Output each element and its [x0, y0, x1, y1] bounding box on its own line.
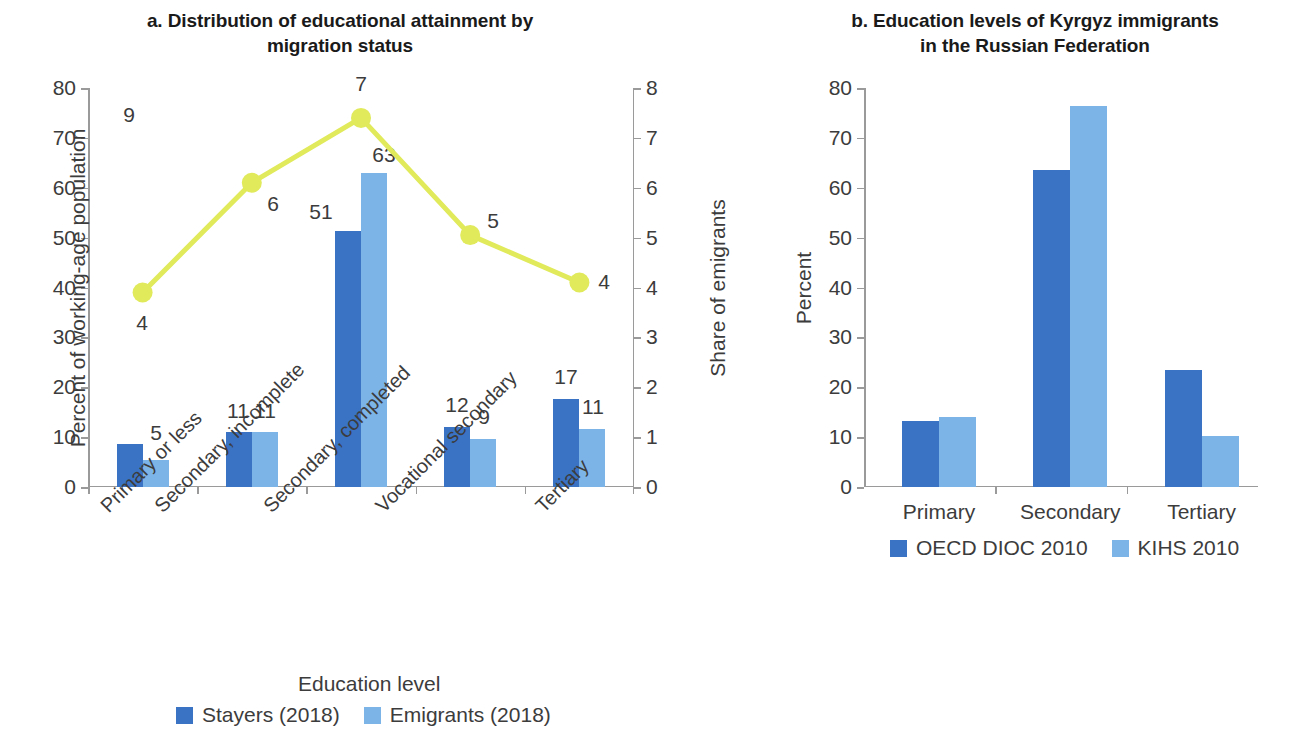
- panel-a-y-axis-title: Percent of working-age population: [66, 128, 90, 447]
- panel-b-xtick-2: [1127, 487, 1129, 494]
- bar-emigrants-secondary-incomplete[interactable]: [252, 432, 278, 487]
- bar-oecd-tertiary[interactable]: [1165, 370, 1202, 487]
- line-marker-3[interactable]: [460, 225, 480, 245]
- panel-b-ytick-60: [857, 188, 864, 190]
- panel-b-ytick-0: [857, 487, 864, 489]
- panel-a-ytick-0: [81, 487, 88, 489]
- line-label-2: 7: [355, 72, 367, 96]
- bar-kihs-tertiary[interactable]: [1202, 436, 1239, 487]
- bar-label-emigrants-4: 11: [582, 395, 604, 419]
- panel-a-y2tick-label-2: 2: [646, 375, 658, 399]
- line-marker-0[interactable]: [133, 283, 153, 303]
- legend-label-emigrants: Emigrants (2018): [390, 703, 551, 727]
- panel-a-y2tick-8: [634, 88, 641, 90]
- panel-b-category-label-2: Tertiary: [1167, 500, 1236, 524]
- legend-swatch-stayers: [176, 707, 193, 724]
- panel-b-ytick-40: [857, 288, 864, 290]
- panel-b-title-line1: b. Education levels of Kyrgyz immigrants: [851, 10, 1219, 31]
- panel-b-category-label-1: Secondary: [1020, 500, 1120, 524]
- panel-b-ytick-label-0: 0: [840, 475, 852, 499]
- panel-a-y2tick-label-4: 4: [646, 276, 658, 300]
- panel-a-title: a. Distribution of educational attainmen…: [80, 8, 600, 58]
- legend-swatch-kihs: [1112, 540, 1129, 557]
- line-marker-1[interactable]: [242, 173, 262, 193]
- panel-a-y2tick-4: [634, 288, 641, 290]
- legend-label-stayers: Stayers (2018): [202, 703, 340, 727]
- legend-item-oecd-dioc[interactable]: OECD DIOC 2010: [890, 536, 1088, 560]
- panel-a-y2tick-5: [634, 238, 641, 240]
- legend-item-stayers[interactable]: Stayers (2018): [176, 703, 340, 727]
- bar-oecd-primary[interactable]: [902, 421, 939, 487]
- panel-a-y2tick-2: [634, 387, 641, 389]
- panel-b-plot-area: 80 70 60 50 40 30 20 10 0 Primary Second…: [864, 88, 1258, 487]
- bar-emigrants-vocational-secondary[interactable]: [470, 439, 496, 487]
- panel-b-left-axis: [864, 88, 866, 487]
- panel-a-secondary-y-axis-title: Share of emigrants: [705, 199, 729, 376]
- panel-b-ytick-20: [857, 387, 864, 389]
- panel-a-y2tick-7: [634, 138, 641, 140]
- panel-a-xtick-2: [306, 487, 308, 494]
- panel-a-y2tick-0: [634, 487, 641, 489]
- panel-b-ytick-label-40: 40: [829, 276, 852, 300]
- panel-a-x-axis-title: Education level: [298, 672, 440, 696]
- panel-b-ytick-80: [857, 88, 864, 90]
- line-marker-2[interactable]: [351, 108, 371, 128]
- panel-a-title-line2: migration status: [267, 35, 413, 56]
- panel-a-y2tick-3: [634, 337, 641, 339]
- legend-swatch-oecd-dioc: [890, 540, 907, 557]
- bar-label-stayers-4: 17: [554, 365, 577, 389]
- panel-b-ytick-label-80: 80: [829, 76, 852, 100]
- bar-kihs-secondary[interactable]: [1070, 106, 1107, 487]
- legend-item-emigrants[interactable]: Emigrants (2018): [364, 703, 551, 727]
- panel-a-y2tick-label-7: 7: [646, 126, 658, 150]
- bar-kihs-primary[interactable]: [939, 417, 976, 487]
- panel-a-legend: Stayers (2018) Emigrants (2018): [176, 703, 565, 727]
- legend-label-kihs: KIHS 2010: [1138, 536, 1240, 560]
- bar-label-emigrants-2: 63: [372, 143, 395, 167]
- legend-item-kihs[interactable]: KIHS 2010: [1112, 536, 1240, 560]
- panel-b-ytick-label-30: 30: [829, 325, 852, 349]
- panel-a-y2tick-label-5: 5: [646, 226, 658, 250]
- panel-b-y-axis-title: Percent: [792, 251, 816, 323]
- panel-a-ytick-80: [81, 88, 88, 90]
- bar-oecd-secondary[interactable]: [1033, 170, 1070, 487]
- bar-label-stayers-2: 51: [309, 200, 332, 224]
- panel-b-title-line2: in the Russian Federation: [920, 35, 1150, 56]
- panel-a-xtick-5: [633, 487, 635, 494]
- panel-b-ytick-label-50: 50: [829, 226, 852, 250]
- panel-a-y2tick-label-0: 0: [646, 475, 658, 499]
- panel-a-ytick-label-0: 0: [64, 475, 76, 499]
- panel-a-y2tick-label-1: 1: [646, 425, 658, 449]
- line-label-3: 5: [487, 209, 499, 233]
- panel-a-xtick-4: [525, 487, 527, 494]
- panel-b-xtick-1: [995, 487, 997, 494]
- line-label-4: 4: [598, 270, 610, 294]
- panel-a-xtick-1: [197, 487, 199, 494]
- figure-root: a. Distribution of educational attainmen…: [0, 0, 1309, 741]
- panel-a-title-line1: a. Distribution of educational attainmen…: [147, 10, 533, 31]
- line-label-1: 6: [267, 192, 279, 216]
- legend-label-oecd-dioc: OECD DIOC 2010: [916, 536, 1088, 560]
- panel-a-y2tick-1: [634, 437, 641, 439]
- panel-a-y2tick-label-3: 3: [646, 325, 658, 349]
- panel-a-y2tick-6: [634, 188, 641, 190]
- panel-b-category-label-0: Primary: [903, 500, 975, 524]
- line-marker-4[interactable]: [569, 273, 589, 293]
- panel-a-ytick-label-80: 80: [53, 76, 76, 100]
- panel-b-ytick-30: [857, 337, 864, 339]
- panel-b-ytick-10: [857, 437, 864, 439]
- legend-swatch-emigrants: [364, 707, 381, 724]
- line-label-0: 4: [136, 311, 148, 335]
- panel-b-legend: OECD DIOC 2010 KIHS 2010: [890, 536, 1253, 560]
- panel-b-title: b. Education levels of Kyrgyz immigrants…: [800, 8, 1270, 58]
- panel-b-ytick-70: [857, 138, 864, 140]
- panel-b-ytick-50: [857, 238, 864, 240]
- panel-a-plot-area: 80 70 60 50 40 30 20 10 0 8 7 6 5: [88, 88, 634, 487]
- panel-a: a. Distribution of educational attainmen…: [0, 0, 760, 741]
- panel-b-ytick-label-10: 10: [829, 425, 852, 449]
- panel-a-y2tick-label-6: 6: [646, 176, 658, 200]
- panel-a-y2tick-label-8: 8: [646, 76, 658, 100]
- panel-b-ytick-label-60: 60: [829, 176, 852, 200]
- bar-emigrants-secondary-completed[interactable]: [361, 173, 387, 487]
- panel-b-ytick-label-20: 20: [829, 375, 852, 399]
